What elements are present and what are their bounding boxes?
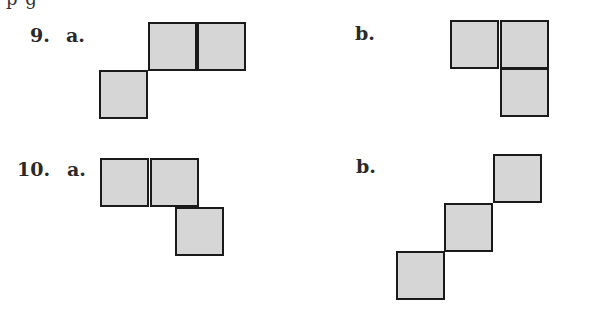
square-tile	[175, 207, 224, 256]
square-tile	[500, 68, 549, 117]
square-tile	[148, 22, 197, 71]
square-tile	[396, 251, 445, 300]
problem-number: 9.	[30, 26, 50, 45]
problem-number: 10.	[17, 160, 50, 179]
square-tile	[493, 154, 542, 203]
part-label: b.	[355, 24, 375, 43]
square-tile	[197, 22, 246, 71]
top-cutoff-text: p g	[6, 0, 38, 9]
part-label: a.	[67, 160, 86, 179]
part-label: b.	[356, 157, 376, 176]
square-tile	[450, 20, 499, 69]
square-tile	[500, 20, 549, 69]
square-tile	[100, 158, 149, 207]
part-label: a.	[66, 26, 85, 45]
square-tile	[150, 158, 199, 207]
square-tile	[444, 203, 493, 252]
square-tile	[99, 70, 148, 119]
